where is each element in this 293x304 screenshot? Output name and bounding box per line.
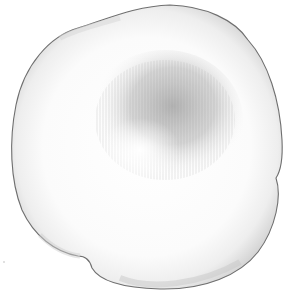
colony-light-spot: [100, 118, 180, 182]
fungal-colony-drawing: [0, 0, 293, 304]
illustration: Roughly circular, slightly lobed colony …: [0, 0, 293, 304]
